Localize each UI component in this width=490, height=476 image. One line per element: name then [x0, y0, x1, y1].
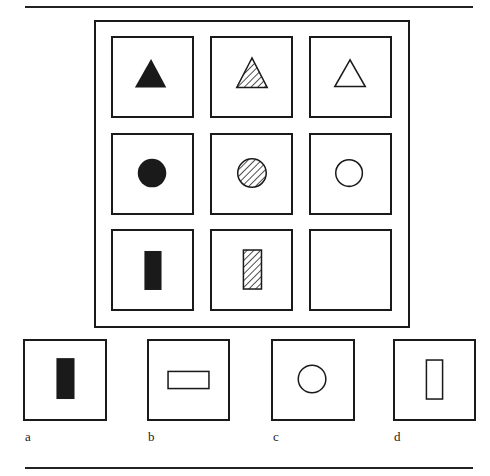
solid-rectangle-icon — [25, 341, 105, 419]
option-c[interactable] — [271, 339, 355, 421]
solid-triangle-icon — [113, 38, 192, 116]
option-d[interactable] — [393, 339, 476, 421]
solid-rectangle-icon — [113, 231, 192, 309]
matrix-cell-r2c2 — [210, 133, 293, 215]
matrix-cell-r1c3 — [309, 36, 392, 118]
outline-rectangle-icon — [395, 341, 474, 419]
matrix-cell-r3c1 — [111, 229, 194, 311]
matrix-cell-r2c1 — [111, 133, 194, 215]
outline-triangle-icon — [311, 38, 390, 116]
outline-circle-icon — [273, 341, 353, 419]
option-b[interactable] — [147, 339, 230, 421]
matrix-cell-r1c2 — [210, 36, 293, 118]
top-rule — [25, 6, 473, 8]
option-a-label: a — [25, 430, 31, 443]
option-d-label: d — [394, 430, 401, 443]
matrix-cell-r2c3 — [309, 133, 392, 215]
bottom-rule — [25, 467, 473, 469]
hatched-circle-icon — [212, 135, 291, 213]
hatched-rectangle-icon — [212, 231, 291, 309]
option-a[interactable] — [23, 339, 107, 421]
solid-circle-icon — [113, 135, 192, 213]
option-c-label: c — [273, 430, 279, 443]
matrix-cell-r1c1 — [111, 36, 194, 118]
matrix-cell-r3c3-missing — [309, 229, 392, 311]
matrix-cell-r3c2 — [210, 229, 293, 311]
option-b-label: b — [148, 430, 155, 443]
outline-circle-icon — [311, 135, 390, 213]
outline-horizontal-rectangle-icon — [149, 341, 228, 419]
hatched-triangle-icon — [212, 38, 291, 116]
